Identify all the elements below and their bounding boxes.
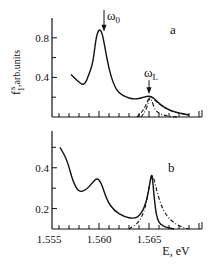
panel-a: 0.40.8aω0ωLfs1,arb.units	[7, 8, 202, 117]
y-axis-label-units: ,arb.units	[11, 50, 22, 87]
y-axis-label: fs1,arb.units	[7, 50, 26, 95]
series-solid-line	[71, 30, 189, 115]
y-tick-label: 0.4	[35, 71, 49, 83]
x-tick-label: 1.565	[137, 233, 162, 245]
y-tick-label: 0.8	[35, 32, 49, 44]
figure: 0.40.8aω0ωLfs1,arb.units 0.20.41.5551.56…	[0, 0, 215, 266]
x-tick-label: 1.560	[87, 233, 112, 245]
arrow-down-icon	[102, 25, 107, 32]
annotation-label: ω0	[107, 8, 121, 25]
panel-b: 0.20.41.5551.5601.565E, eVb	[35, 131, 202, 258]
series-solid-line	[60, 147, 174, 229]
x-tick-label: 1.555	[37, 233, 62, 245]
annotation-label: ωL	[144, 65, 158, 82]
x-axis-label: E, eV	[162, 244, 190, 258]
annotation-subscript: 0	[116, 15, 121, 25]
y-tick-label: 0.2	[35, 203, 49, 215]
panel-label: a	[170, 22, 176, 37]
y-tick-label: 0.4	[35, 162, 49, 174]
panel-label: b	[168, 160, 175, 175]
annotation-subscript: L	[153, 72, 159, 82]
arrow-down-icon	[147, 87, 152, 94]
